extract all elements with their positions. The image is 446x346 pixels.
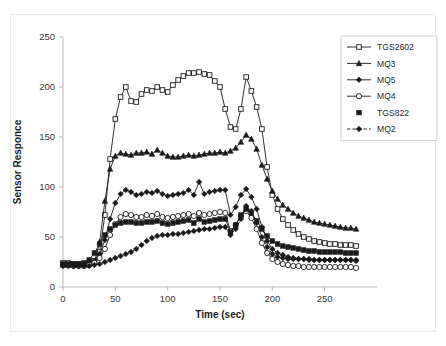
legend-label: MQ5: [377, 75, 396, 85]
legend-label: MQ3: [377, 59, 396, 69]
legend-label: TGS822: [377, 108, 409, 118]
svg-text:150: 150: [39, 131, 55, 142]
svg-text:200: 200: [39, 81, 55, 92]
svg-text:100: 100: [160, 293, 176, 304]
legend-label: MQ4: [377, 91, 396, 101]
y-axis-title: Sensor Responce: [12, 119, 23, 204]
svg-text:50: 50: [44, 231, 55, 242]
svg-text:150: 150: [212, 293, 228, 304]
svg-text:Sensor Responce: Sensor Responce: [12, 119, 23, 204]
y-axis-ticks: 050100150200250: [39, 31, 63, 292]
x-axis-title: Time (sec): [195, 309, 244, 320]
chart-figure: 050100150200250050100150200250Time (sec)…: [0, 0, 446, 346]
sensor-response-line-chart: 050100150200250050100150200250Time (sec)…: [0, 0, 446, 346]
svg-text:50: 50: [110, 293, 121, 304]
legend: TGS2602MQ3MQ5MQ4TGS822MQ2: [341, 36, 437, 140]
svg-text:Time (sec): Time (sec): [195, 309, 244, 320]
legend-label: TGS2602: [377, 42, 414, 52]
x-axis-ticks: 050100150200250: [60, 287, 332, 304]
legend-label: MQ2: [377, 124, 396, 134]
svg-text:0: 0: [50, 281, 55, 292]
svg-text:100: 100: [39, 181, 55, 192]
svg-text:200: 200: [264, 293, 280, 304]
svg-text:250: 250: [317, 293, 333, 304]
svg-text:0: 0: [60, 293, 65, 304]
svg-text:250: 250: [39, 31, 55, 42]
